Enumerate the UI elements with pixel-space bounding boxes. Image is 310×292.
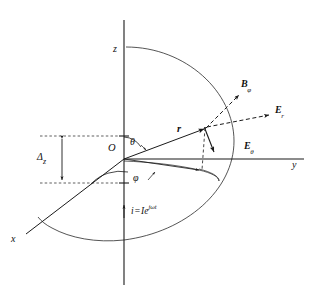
delta-z-base: Δ xyxy=(37,151,43,162)
current-exponent: jωt xyxy=(148,203,156,210)
current-equals-sign: = xyxy=(134,206,141,216)
origin-label: O xyxy=(108,143,116,154)
figure-canvas xyxy=(0,0,310,292)
field-vectors-group xyxy=(204,95,269,152)
theta-pointer xyxy=(141,145,146,150)
sphere-lower-arc xyxy=(38,217,52,228)
e-r-vector xyxy=(207,115,269,127)
p-vertical-dashed-drop xyxy=(202,128,205,170)
phi-arc xyxy=(91,171,128,184)
e-theta-sub: θ xyxy=(250,148,253,156)
x-axis-line xyxy=(26,159,124,234)
r-vector-line xyxy=(124,129,204,159)
z-axis-label: z xyxy=(113,44,117,54)
y-axis-label: y xyxy=(292,160,296,170)
delta-z-sub: z xyxy=(43,157,46,166)
e-theta-label: Eθ xyxy=(244,141,254,154)
e-theta-vector xyxy=(205,129,214,152)
observation-point xyxy=(204,127,206,129)
e-r-sub: r xyxy=(281,112,284,120)
x-axis-label: x xyxy=(11,234,15,244)
b-phi-sub: φ xyxy=(247,86,251,94)
b-phi-label: Bφ xyxy=(241,79,252,92)
phi-pointer xyxy=(148,172,155,180)
dipole-figure: z y x O θ φ r Δz Bφ Er Eθ i=Iejωt xyxy=(0,0,310,292)
r-vector-label: r xyxy=(177,124,181,135)
delta-z-dimension xyxy=(40,136,118,183)
theta-angle-label: θ xyxy=(130,137,135,147)
r-projection-line xyxy=(124,159,199,170)
current-equation-label: i=Iejωt xyxy=(131,205,157,217)
phi-angle-label: φ xyxy=(133,173,139,183)
r-vector-group xyxy=(124,129,204,159)
e-r-label: Er xyxy=(275,105,284,118)
axes-group xyxy=(26,20,304,285)
delta-z-label: Δz xyxy=(37,152,46,165)
